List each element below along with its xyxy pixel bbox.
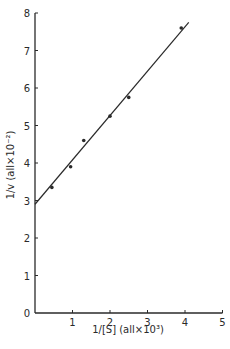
- y-tick-label: 5: [24, 121, 30, 132]
- data-point: [179, 26, 183, 30]
- y-tick-label: 4: [24, 158, 30, 169]
- data-point: [127, 96, 131, 100]
- y-tick-label: 6: [24, 83, 30, 94]
- data-point: [82, 139, 86, 143]
- y-axis-title: 1/v (all×10⁻²): [5, 131, 16, 200]
- y-tick-label: 1: [24, 271, 30, 282]
- regression-line: [35, 22, 189, 204]
- x-axis-title: 1/[S] (all×10³): [92, 324, 164, 335]
- y-axis-ticks: 012345678: [24, 8, 38, 319]
- data-point: [50, 186, 54, 190]
- y-tick-label: 7: [24, 46, 30, 57]
- data-point: [69, 165, 73, 169]
- axes: [35, 13, 223, 313]
- y-tick-label: 3: [24, 196, 30, 207]
- x-tick-label: 4: [182, 317, 188, 328]
- data-point: [108, 114, 112, 118]
- lineweaver-burk-plot: 012345678 12345 1/[S] (all×10³) 1/v (all…: [0, 0, 230, 349]
- y-tick-label: 2: [24, 233, 30, 244]
- y-tick-label: 0: [24, 308, 30, 319]
- x-tick-label: 5: [219, 317, 225, 328]
- fit-line: [35, 22, 189, 204]
- x-tick-label: 1: [69, 317, 75, 328]
- y-tick-label: 8: [24, 8, 30, 19]
